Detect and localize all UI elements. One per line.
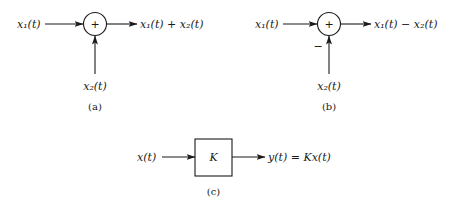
caption-b: (b) [322, 101, 336, 112]
plus-sign: + [324, 18, 333, 31]
output-y-label: y(t) = Kx(t) [267, 151, 331, 164]
gain-label: K [208, 151, 218, 164]
summing-junction-diagram-b: x₁(t) + x₁(t) − x₂(t) − x₂(t) (b) [255, 13, 437, 113]
minus-sign: − [313, 40, 322, 53]
block-diagrams-figure: x₁(t) + x₁(t) + x₂(t) x₂(t) (a) x₁(t) + … [0, 0, 457, 205]
caption-a: (a) [88, 101, 102, 112]
input-x2-label: x₂(t) [83, 80, 107, 93]
summing-junction-diagram-a: x₁(t) + x₁(t) + x₂(t) x₂(t) (a) [17, 13, 203, 113]
plus-sign: + [90, 18, 99, 31]
caption-c: (c) [207, 186, 221, 197]
gain-block-diagram-c: x(t) K y(t) = Kx(t) (c) [137, 139, 331, 197]
input-x1-label: x₁(t) [255, 18, 279, 31]
input-x1-label: x₁(t) [17, 18, 41, 31]
output-difference-label: x₁(t) − x₂(t) [374, 18, 437, 31]
output-sum-label: x₁(t) + x₂(t) [140, 18, 203, 31]
input-x-label: x(t) [137, 151, 156, 164]
input-x2-label: x₂(t) [317, 80, 341, 93]
